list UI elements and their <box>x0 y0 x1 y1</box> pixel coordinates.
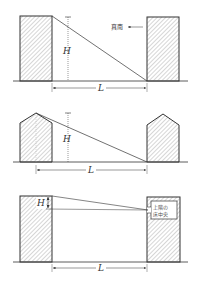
reference-line <box>46 209 148 210</box>
south-building <box>147 114 179 162</box>
diagram-canvas: H L 真南 H L 上階の 床中央 <box>0 0 202 286</box>
distance-label: L <box>97 263 104 273</box>
figure-1-flat-roof: H L 真南 <box>13 16 188 93</box>
distance-label: L <box>97 83 104 93</box>
height-label: H <box>62 134 71 144</box>
box-label-line1: 上階の <box>153 204 168 211</box>
height-label: H <box>36 198 45 208</box>
height-label: H <box>62 46 71 56</box>
shadow-line <box>52 196 148 210</box>
south-building <box>147 17 179 81</box>
direction-label: 真南 <box>111 23 123 31</box>
box-label-line2: 床中央 <box>153 211 168 218</box>
distance-label: L <box>87 165 94 175</box>
figure-3-upper-floor: 上階の 床中央 H L <box>13 196 188 273</box>
north-building <box>20 16 52 81</box>
shadow-line <box>36 113 147 162</box>
figure-2-gable-roof: H L <box>13 113 188 175</box>
